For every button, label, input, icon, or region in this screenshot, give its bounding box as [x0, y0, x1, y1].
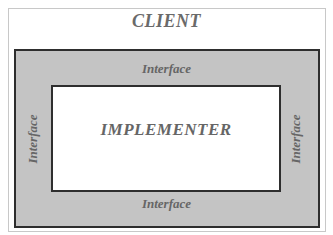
- interface-label-left: Interface: [25, 99, 41, 179]
- interface-label-top: Interface: [0, 61, 333, 77]
- interface-label-right: Interface: [288, 99, 304, 179]
- implementer-label: IMPLEMENTER: [51, 120, 281, 140]
- interface-label-bottom: Interface: [0, 196, 333, 212]
- client-label: CLIENT: [0, 11, 333, 32]
